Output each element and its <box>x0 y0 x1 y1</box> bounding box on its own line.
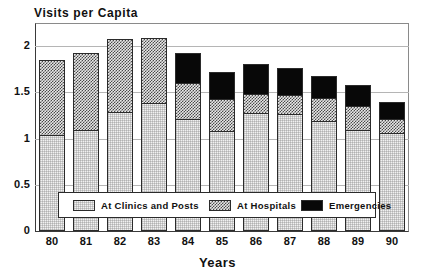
bar-segment-emergencies <box>311 76 337 99</box>
legend-item-2: Emergencies <box>301 193 391 217</box>
bar-segment-hospitals <box>73 53 99 132</box>
legend-label: At Clinics and Posts <box>101 200 199 211</box>
legend-item-1: At Hospitals <box>209 193 296 217</box>
legend-swatch-solid-black <box>301 200 323 211</box>
legend-label: At Hospitals <box>237 200 296 211</box>
y-tick-label: 1 <box>0 132 30 144</box>
bar-segment-hospitals <box>311 98 337 122</box>
bar-segment-emergencies <box>175 53 201 84</box>
chart-legend: At Clinics and PostsAt HospitalsEmergenc… <box>58 192 376 218</box>
gridline <box>35 46 409 47</box>
bar-segment-hospitals <box>345 106 371 131</box>
legend-swatch-light-dotted <box>73 200 95 211</box>
bar-segment-hospitals <box>107 39 133 113</box>
y-tick-label: 0 <box>0 224 30 236</box>
y-tick-label: 0.5 <box>0 178 30 190</box>
bar-segment-hospitals <box>277 95 303 115</box>
legend-label: Emergencies <box>329 200 391 211</box>
bar-segment-emergencies <box>345 85 371 107</box>
x-tick-label-90: 90 <box>372 235 412 247</box>
legend-swatch-checkerboard-hatch <box>209 200 231 211</box>
legend-item-0: At Clinics and Posts <box>73 193 199 217</box>
bar-segment-hospitals <box>243 94 269 113</box>
bar-segment-emergencies <box>379 102 405 120</box>
bar-segment-hospitals <box>379 119 405 134</box>
bar-segment-hospitals <box>175 83 201 120</box>
bar-segment-emergencies <box>209 72 235 100</box>
bar-segment-hospitals <box>209 99 235 132</box>
y-tick-label: 1.5 <box>0 85 30 97</box>
bar-segment-emergencies <box>243 64 269 96</box>
bar-segment-emergencies <box>277 68 303 96</box>
bar-chart: Visits per Capita 00.511.52 808182838485… <box>0 0 435 279</box>
x-axis-label: Years <box>0 255 435 270</box>
bar-segment-hospitals <box>141 38 167 105</box>
bar-segment-hospitals <box>39 60 65 136</box>
y-tick-label: 2 <box>0 39 30 51</box>
